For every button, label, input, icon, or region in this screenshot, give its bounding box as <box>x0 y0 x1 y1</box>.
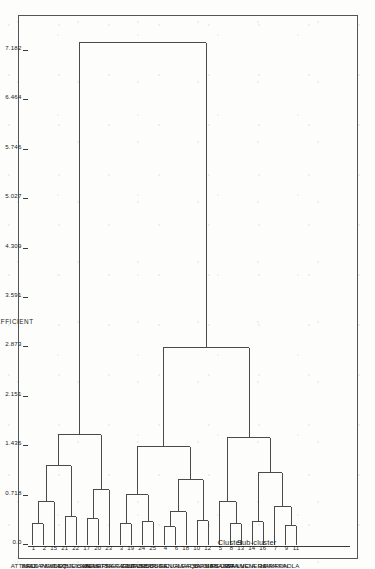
dendrogram-link <box>142 522 143 545</box>
leaf-number: 4 <box>164 545 167 551</box>
dendrogram-link <box>197 521 198 545</box>
axis-tick-label: 2.151 <box>5 390 21 397</box>
dendrogram-link <box>203 480 204 521</box>
axis-tick <box>23 99 28 100</box>
dendrogram-link <box>249 348 250 439</box>
leaf-number: 12 <box>204 545 211 551</box>
dendrogram-link <box>170 512 171 527</box>
leaf-number: 18 <box>182 545 189 551</box>
axis-tick-label: 5.746 <box>5 143 21 150</box>
axis-tick-label: 7.182 <box>5 44 21 51</box>
dendrogram-link <box>148 496 149 523</box>
leaf-number: 25 <box>149 545 156 551</box>
dendrogram-link <box>227 438 228 502</box>
figure-page: 0.00.7181.4362.1512.8733.5914.3095.0275.… <box>0 0 375 569</box>
leaf-number: 11 <box>293 545 299 551</box>
dendrogram-link <box>87 519 88 545</box>
dendrogram-link <box>79 43 80 435</box>
dendrogram-link <box>32 524 33 545</box>
dendrogram-link <box>178 480 179 512</box>
leaf-number: 19 <box>127 545 134 551</box>
dendrogram-link <box>163 348 164 448</box>
dendrogram-link <box>153 522 154 545</box>
axis-tick-label: 4.309 <box>5 242 21 249</box>
axis-tick-label: 6.464 <box>5 93 21 100</box>
dendrogram-link <box>270 438 271 472</box>
axis-tick <box>23 248 28 249</box>
dendrogram-plot: 0.00.7181.4362.1512.8733.5914.3095.0275.… <box>28 27 350 547</box>
dendrogram-link <box>291 507 292 526</box>
leaf-number: 2 <box>43 545 46 551</box>
dendrogram-link <box>175 527 176 545</box>
dendrogram-link <box>164 527 165 545</box>
dendrogram-link <box>54 502 55 545</box>
axis-tick <box>23 346 28 347</box>
dendrogram-link <box>38 502 39 524</box>
dendrogram-link <box>109 490 110 545</box>
dendrogram-link <box>126 496 127 525</box>
leaf-number: 15 <box>50 545 57 551</box>
axis-tick <box>23 198 28 199</box>
axis-tick-label: 0.0 <box>12 538 21 545</box>
dendrogram-link <box>101 435 102 490</box>
dendrogram-link <box>137 447 138 495</box>
leaf-number: 17 <box>83 545 90 551</box>
dendrogram-link <box>296 526 297 545</box>
dendrogram-link <box>186 512 187 545</box>
dendrogram-link <box>79 42 206 43</box>
axis-tick-label: 5.027 <box>5 192 21 199</box>
dendrogram-link <box>46 466 47 502</box>
leaf-number: 21 <box>61 545 68 551</box>
leaf-number: 3 <box>120 545 123 551</box>
dendrogram-link <box>206 43 207 348</box>
dendrogram-link <box>98 519 99 545</box>
axis-tick <box>23 297 28 298</box>
column-header-subcluster: Sub-cluster <box>237 538 277 547</box>
axis-tick-label: 2.873 <box>5 340 21 347</box>
dendrogram-link <box>208 521 209 545</box>
axis-tick <box>23 149 28 150</box>
rotated-figure-canvas: 0.00.7181.4362.1512.8733.5914.3095.0275.… <box>0 0 375 569</box>
leaf-number: 23 <box>105 545 112 551</box>
leaf-number: 6 <box>175 545 178 551</box>
dendrogram-link <box>285 526 286 545</box>
leaf-number: 22 <box>72 545 79 551</box>
dendrogram-link <box>58 435 59 466</box>
dendrogram-link <box>43 524 44 545</box>
dendrogram-link <box>120 524 121 545</box>
axis-tick <box>23 445 28 446</box>
dendrogram-link <box>76 518 77 546</box>
axis-title-coefficient: COEFFICIENT <box>0 318 34 325</box>
leaf-label: PAOLA <box>279 562 300 569</box>
leaf-number: 10 <box>193 545 200 551</box>
dendrogram-link <box>236 502 237 524</box>
leaf-number: 1 <box>32 545 35 551</box>
dendrogram-link <box>65 518 66 546</box>
axis-tick <box>23 396 28 397</box>
dendrogram-link <box>258 473 259 523</box>
axis-tick-label: 0.718 <box>5 489 21 496</box>
dendrogram-link <box>190 447 191 479</box>
dendrogram-link <box>131 524 132 545</box>
axis-tick <box>23 495 28 496</box>
dendrogram-link <box>71 466 72 518</box>
leaf-number: 24 <box>138 545 145 551</box>
axis-tick <box>23 544 28 545</box>
leaf-number: 9 <box>285 545 288 551</box>
leaf-number: 20 <box>94 545 101 551</box>
axis-tick <box>23 50 28 51</box>
dendrogram-link <box>282 473 283 507</box>
axis-tick-label: 1.436 <box>5 439 21 446</box>
axis-tick-label: 3.591 <box>5 291 21 298</box>
dendrogram-link <box>93 490 94 519</box>
